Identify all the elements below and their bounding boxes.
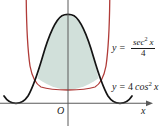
label-sec-lhs: y: [112, 43, 116, 53]
label-cos-exponent: 2: [148, 80, 151, 87]
curve-label-sec-squared-over-4: y = sec2 x 4: [112, 38, 155, 58]
graph-canvas: [0, 0, 159, 126]
origin-label: O: [57, 105, 64, 116]
label-cos-coefficient: 4: [128, 81, 133, 92]
label-sec-numerator-fn: sec: [133, 37, 145, 47]
label-sec-denominator: 4: [141, 49, 146, 58]
label-sec-fraction: sec2 x 4: [131, 38, 155, 58]
label-cos-function: cos: [135, 81, 148, 92]
curve-label-4-cos-squared: y=4 cos2 x: [112, 82, 158, 92]
x-axis-arrowhead: [146, 100, 153, 106]
label-sec-numerator-var: x: [149, 37, 153, 47]
label-sec-equals: =: [119, 43, 125, 53]
label-cos-equals: =: [119, 81, 125, 92]
x-axis-label: x: [141, 105, 145, 116]
figure-container: y = sec2 x 4 y=4 cos2 x O x: [0, 0, 159, 126]
label-cos-lhs: y: [112, 81, 116, 92]
label-sec-numerator-exponent: 2: [145, 36, 148, 42]
label-sec-numerator: sec2 x: [131, 38, 155, 47]
label-cos-variable: x: [154, 81, 158, 92]
